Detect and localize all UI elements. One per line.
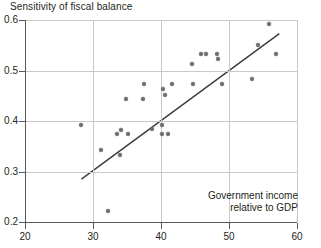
x-tick-label-wrap: 50 (214, 231, 244, 243)
data-point (170, 82, 174, 86)
x-tick-mark (25, 223, 26, 229)
gridline-vertical (161, 20, 162, 222)
y-tick-mark (19, 20, 25, 21)
data-point (216, 57, 220, 61)
data-point (119, 128, 123, 132)
x-tick-label: 20 (10, 231, 40, 243)
x-tick-label-wrap: 40 (146, 231, 176, 243)
data-point (256, 43, 260, 47)
x-tick-mark (93, 223, 94, 229)
y-tick-mark (19, 71, 25, 72)
data-point (199, 52, 203, 56)
x-tick-label: 60 (282, 231, 312, 243)
annotation-line-1: Government income (208, 190, 298, 202)
x-tick-mark (297, 223, 298, 229)
data-point (106, 209, 110, 213)
data-point (274, 52, 278, 56)
y-tick-label: 0.6 (4, 15, 18, 25)
data-point (166, 132, 170, 136)
y-tick-label: 0.2 (4, 217, 18, 227)
axis-annotation: Government income relative to GDP (208, 190, 298, 214)
data-point (204, 52, 208, 56)
annotation-line-2: relative to GDP (208, 202, 298, 214)
x-tick-label-wrap: 60 (282, 231, 312, 243)
y-tick-label-wrap: 0.2 (0, 217, 18, 227)
data-point (124, 97, 128, 101)
y-tick-label-wrap: 0.5 (0, 66, 18, 76)
data-point (215, 52, 219, 56)
y-tick-label-wrap: 0.6 (0, 15, 18, 25)
trend-line (81, 34, 279, 179)
data-point (126, 132, 130, 136)
chart-title: Sensitivity of fiscal balance (10, 1, 132, 13)
x-tick-label: 40 (146, 231, 176, 243)
data-point (163, 93, 167, 97)
x-tick-label-wrap: 20 (10, 231, 40, 243)
x-tick-mark (229, 223, 230, 229)
y-tick-mark (19, 121, 25, 122)
data-point (118, 153, 122, 157)
y-tick-label: 0.4 (4, 116, 18, 126)
gridline-vertical (93, 20, 94, 222)
y-axis-line (25, 20, 26, 223)
data-point (160, 123, 164, 127)
data-point (267, 22, 271, 26)
y-tick-label: 0.3 (4, 167, 18, 177)
y-tick-label-wrap: 0.4 (0, 116, 18, 126)
y-tick-mark (19, 172, 25, 173)
x-tick-mark (161, 223, 162, 229)
y-tick-label: 0.5 (4, 66, 18, 76)
x-tick-label: 30 (78, 231, 108, 243)
x-tick-label: 50 (214, 231, 244, 243)
y-tick-label-wrap: 0.3 (0, 167, 18, 177)
scatter-chart: Sensitivity of fiscal balance 0.20.30.40… (0, 0, 321, 248)
x-tick-label-wrap: 30 (78, 231, 108, 243)
